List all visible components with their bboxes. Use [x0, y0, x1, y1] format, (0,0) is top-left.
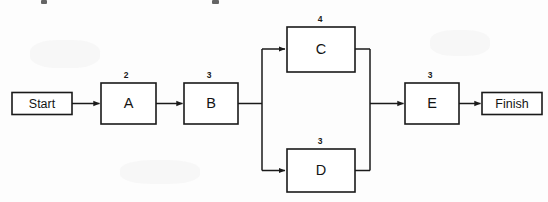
node-b-label: B	[206, 95, 216, 111]
node-c-label: C	[316, 41, 326, 57]
node-finish-label: Finish	[495, 97, 528, 111]
node-b-duration: 3	[207, 70, 212, 80]
node-d-duration: 3	[318, 136, 323, 146]
node-a-label: A	[124, 95, 134, 111]
diagram-canvas: Start A 2 B 3 C 4 D 3 E 3 Finish	[0, 0, 548, 202]
node-e-duration: 3	[428, 70, 433, 80]
node-start-label: Start	[29, 97, 56, 111]
node-a-duration: 2	[124, 70, 129, 80]
network-diagram: Start A 2 B 3 C 4 D 3 E 3 Finish	[0, 0, 548, 202]
node-c-duration: 4	[318, 14, 323, 24]
node-d-label: D	[316, 162, 326, 178]
node-e-label: E	[427, 95, 437, 111]
